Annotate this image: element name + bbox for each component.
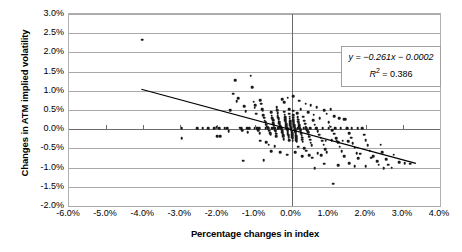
y-axis-tick-label: 2.5% — [0, 27, 64, 37]
y-axis-tick-label: -1.0% — [0, 162, 64, 172]
y-axis-tick-label: 2.0% — [0, 46, 64, 56]
y-axis-tick-label: -0.5% — [0, 142, 64, 152]
y-axis-tick-label: 1.5% — [0, 66, 64, 76]
y-axis-tick-label: 0.0% — [0, 123, 64, 133]
x-axis-tick — [403, 125, 404, 130]
x-axis-tick — [255, 125, 256, 130]
x-axis-tick — [217, 125, 218, 130]
y-axis-tick-label: -1.5% — [0, 181, 64, 191]
x-axis-tick — [329, 125, 330, 130]
y-axis-tick-label: 1.0% — [0, 85, 64, 95]
scatter-chart: Changes in ATM implied volatility 3.0%2.… — [0, 0, 462, 252]
x-axis-tick — [292, 125, 293, 130]
regression-equation-text: y = −0.261x − 0.0002 — [347, 51, 435, 64]
x-axis-tick — [106, 125, 107, 130]
y-axis-tick-label: 0.5% — [0, 104, 64, 114]
x-axis-tick-label: 4.0% — [416, 208, 462, 218]
regression-equation-box: y = −0.261x − 0.0002 R2 = 0.386 — [341, 46, 441, 87]
r-squared-text: R2 = 0.386 — [347, 64, 435, 81]
x-axis-tick — [180, 125, 181, 130]
x-axis-tick — [366, 125, 367, 130]
trendline — [69, 14, 440, 206]
y-axis-tick-label: 3.0% — [0, 8, 64, 18]
r-squared-value: = 0.386 — [382, 69, 412, 79]
plot-area — [68, 13, 441, 207]
gridline-horizontal — [69, 206, 440, 207]
x-axis-tick — [143, 125, 144, 130]
r-squared-exponent: 2 — [376, 67, 380, 74]
x-axis-title: Percentage changes in index — [68, 228, 442, 239]
